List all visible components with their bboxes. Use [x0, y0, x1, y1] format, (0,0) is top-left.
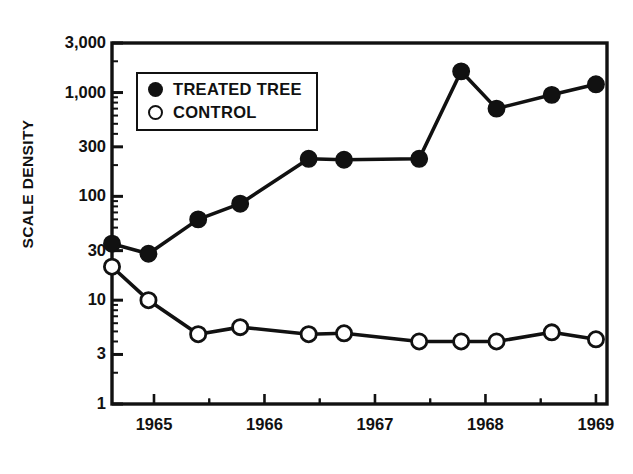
data-point — [544, 325, 559, 340]
data-point — [301, 327, 316, 342]
data-point — [190, 211, 206, 227]
data-point — [588, 332, 603, 347]
data-point — [104, 259, 119, 274]
data-point — [412, 334, 427, 349]
data-point — [232, 195, 248, 211]
legend-entry-treated-tree: TREATED TREE — [147, 78, 302, 101]
chart-figure: SCALE DENSITY 3,0001,000300100301031 196… — [0, 0, 633, 474]
data-point — [453, 63, 469, 79]
data-point — [454, 334, 469, 349]
legend-label-control: CONTROL — [173, 103, 257, 122]
data-point — [411, 151, 427, 167]
legend-entry-control: CONTROL — [147, 101, 302, 124]
chart-legend: TREATED TREE CONTROL — [136, 72, 318, 131]
data-point — [588, 76, 604, 92]
series-control — [104, 259, 603, 349]
data-point — [488, 100, 504, 116]
data-point — [336, 326, 351, 341]
filled-circle-marker-icon — [148, 82, 163, 97]
data-point — [191, 327, 206, 342]
data-point — [140, 246, 156, 262]
data-point — [104, 235, 120, 251]
data-point — [336, 152, 352, 168]
data-point — [544, 87, 560, 103]
open-circle-marker-icon — [148, 105, 163, 120]
data-point — [300, 151, 316, 167]
data-point — [141, 293, 156, 308]
legend-label-treated-tree: TREATED TREE — [173, 80, 302, 99]
data-point — [489, 334, 504, 349]
data-point — [233, 320, 248, 335]
